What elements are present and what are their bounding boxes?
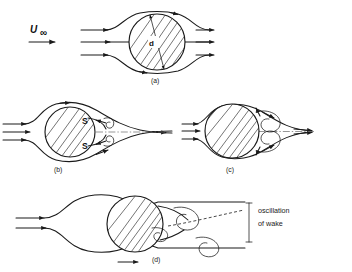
panel-c-vortex-upper	[256, 111, 280, 132]
panel-d-label: (d)	[152, 256, 160, 264]
panel-b-separation-label-upper: S	[82, 116, 88, 126]
oscillation-annotation-line-2: of wake	[258, 219, 283, 228]
panel-b-label: (b)	[54, 166, 62, 174]
panel-d: oscillation of wake (d)	[16, 188, 290, 264]
freestream-u-symbol: U	[30, 24, 38, 35]
panel-d-vortex-2	[196, 237, 219, 257]
panel-c-arrow-upper-exit	[294, 129, 312, 130]
panel-c-vortex-lower	[256, 131, 280, 152]
panel-c: (c)	[182, 98, 314, 174]
panel-a: U ∞ d (a)	[29, 4, 214, 85]
panel-d-shear-layer-lower	[160, 230, 184, 240]
panel-c-cylinder	[205, 104, 259, 158]
oscillation-annotation-line-1: oscillation	[258, 206, 290, 215]
panel-c-incoming-streamlines	[182, 124, 200, 139]
panel-d-wake-oscillation-line	[168, 210, 244, 226]
panel-b-separation-label-lower: S	[82, 141, 88, 151]
freestream-velocity-label: U ∞	[29, 24, 55, 42]
panel-d-cylinder	[107, 196, 163, 252]
panel-d-oscillation-bracket	[246, 203, 252, 242]
panel-c-label: (c)	[226, 166, 234, 174]
panel-a-diameter-label: d	[149, 39, 154, 48]
fluid-flow-figure: U ∞ d (a)	[0, 0, 352, 272]
panel-a-arrow-lower	[139, 72, 147, 73]
figure-canvas: U ∞ d (a)	[0, 0, 352, 272]
panel-b: S S (b)	[3, 100, 172, 174]
panel-a-label: (a)	[151, 77, 159, 85]
panel-c-arrow-lower-exit	[294, 133, 312, 134]
panel-b-incoming-streamlines	[3, 124, 30, 140]
panel-d-incoming-streamlines	[16, 218, 46, 228]
freestream-infinity-subscript: ∞	[40, 27, 47, 38]
